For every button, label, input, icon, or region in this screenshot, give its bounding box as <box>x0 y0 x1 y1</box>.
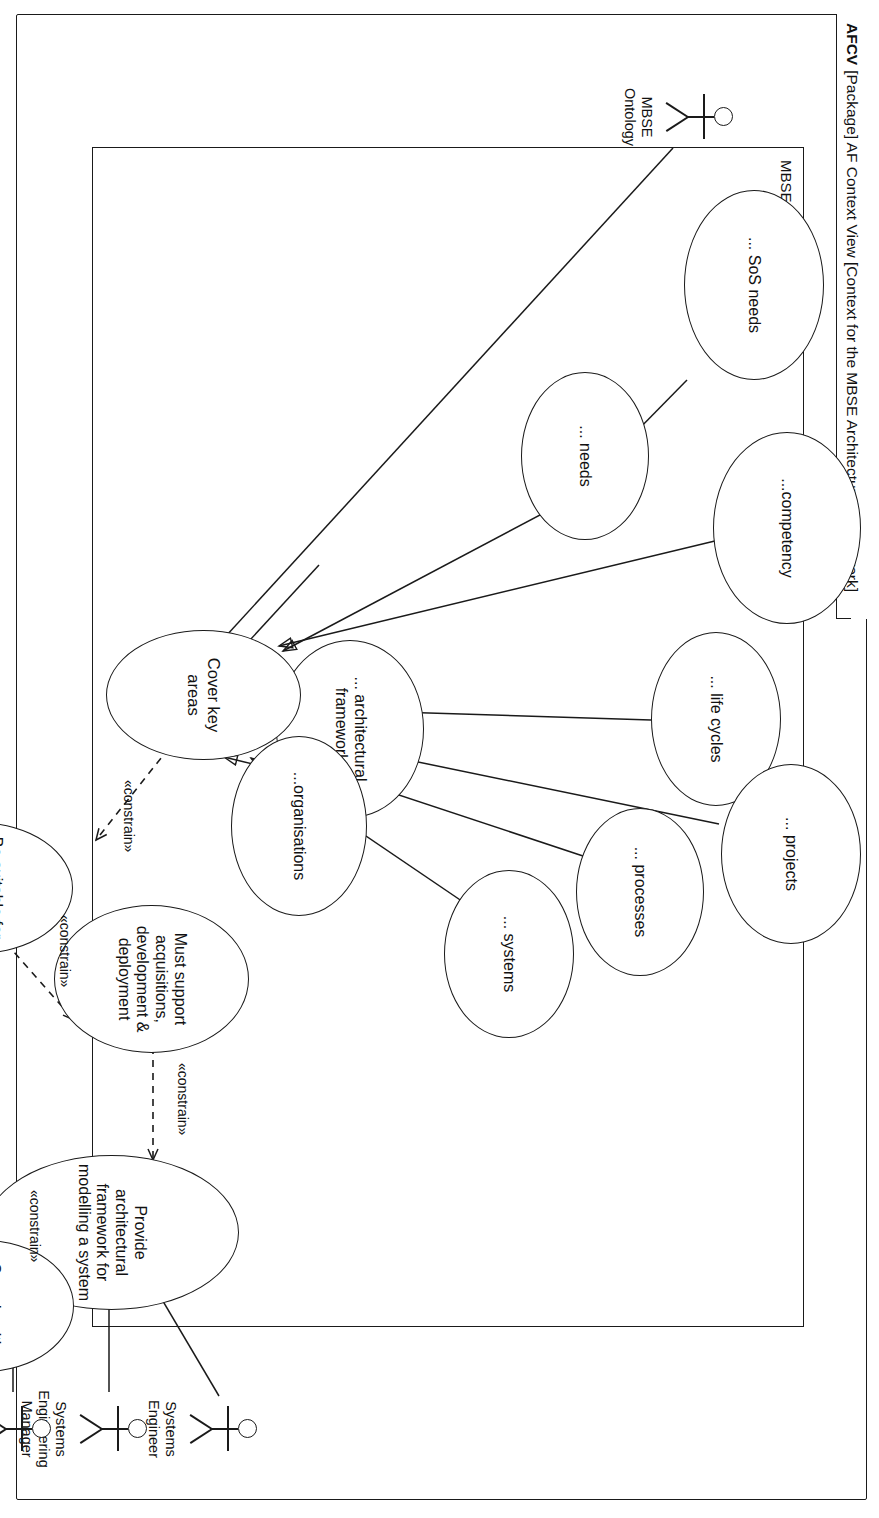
use-case-label: Be suitable formultiple domains <box>0 823 5 953</box>
use-case-label: Provide architecturalframework formodell… <box>74 1156 150 1309</box>
use-case-organisations[interactable]: ...organisations <box>231 736 367 916</box>
actor-leg-left-icon <box>80 1414 103 1429</box>
actor-head-icon <box>238 1419 257 1438</box>
actor-leg-right-icon <box>190 1428 213 1443</box>
rotated-canvas: AFCV [Package] AF Context View [Context … <box>0 0 879 1518</box>
actor-body-icon <box>101 1428 128 1430</box>
actor-body-icon <box>5 1428 32 1430</box>
use-case-label: ...organisations <box>290 766 309 887</box>
actor-label: MBSEOntology <box>621 58 655 176</box>
actor-head-icon <box>714 107 733 126</box>
actor-leg-left-icon <box>190 1414 213 1429</box>
use-case-label: Cover key areas <box>184 631 223 759</box>
actor-body-icon <box>211 1428 238 1430</box>
actor-leg-right-icon <box>666 116 689 131</box>
actor-systems-engineering-manager[interactable]: SystemsEngineeringManager <box>73 1400 147 1458</box>
use-case-label: ... life cycles <box>707 669 726 768</box>
diagram-frame-title-id: AFCV <box>843 23 861 65</box>
actor-leg-left-icon <box>666 102 689 117</box>
actor-leg-right-icon <box>0 1428 6 1443</box>
use-case-projects[interactable]: ... projects <box>721 764 861 944</box>
actor-head-icon <box>128 1419 147 1438</box>
use-case-label: Comply withbest practice <box>0 1255 3 1358</box>
dependency-label-constrain-cover: «constrain» <box>121 780 137 852</box>
use-case-competency[interactable]: ...competency <box>713 432 861 624</box>
use-case-label: ...competency <box>778 472 797 584</box>
use-case-systems[interactable]: ... systems <box>444 870 574 1038</box>
dependency-label-constrain-comply: «constrain» <box>27 1190 43 1262</box>
use-case-label: ... projects <box>782 811 801 897</box>
actor-arms-icon <box>703 94 705 139</box>
diagram-page: AFCV [Package] AF Context View [Context … <box>0 0 879 1518</box>
use-case-label: ... SoS needs <box>745 231 764 339</box>
actor-leg-right-icon <box>80 1428 103 1443</box>
actor-label: SystemsEngineer <box>145 1370 179 1488</box>
use-case-sos-needs[interactable]: ... SoS needs <box>684 190 824 380</box>
use-case-processes[interactable]: ... processes <box>576 808 704 976</box>
actor-head-icon <box>32 1419 51 1438</box>
actor-arms-icon <box>227 1406 229 1451</box>
actor-arms-icon <box>117 1406 119 1451</box>
actor-systems-engineer[interactable]: SystemsEngineer <box>183 1400 257 1458</box>
use-case-label: ... needs <box>576 419 595 492</box>
actor-mbse-ontology[interactable]: MBSEOntology <box>659 88 733 146</box>
actor-body-icon <box>687 116 714 118</box>
dependency-label-constrain-be-suitable: «constrain» <box>57 915 73 987</box>
dependency-label-constrain-must-support: «constrain» <box>175 1063 191 1135</box>
actor-arms-icon <box>21 1406 23 1451</box>
use-case-cover-key-areas[interactable]: Cover key areas <box>106 630 301 760</box>
use-case-label: ... systems <box>500 910 519 998</box>
actor-af-standard[interactable]: AF Standard <box>0 1400 51 1458</box>
use-case-needs[interactable]: ... needs <box>521 372 649 540</box>
use-case-label: ... processes <box>631 841 650 944</box>
use-case-label: Must supportacquisitions,development &de… <box>114 920 190 1039</box>
use-case-must-support[interactable]: Must supportacquisitions,development &de… <box>54 905 249 1053</box>
